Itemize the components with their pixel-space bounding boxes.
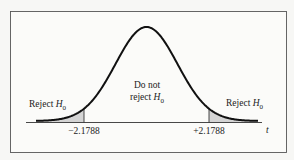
right-critical-value: +2.1788: [193, 126, 225, 136]
t-axis-label: t: [266, 125, 269, 135]
do-not-label: Do not: [134, 80, 160, 90]
left-critical-value: −2.1788: [68, 126, 100, 136]
t-distribution-chart: Reject H0 Do not reject H0 Reject H0 −2.…: [0, 0, 294, 160]
